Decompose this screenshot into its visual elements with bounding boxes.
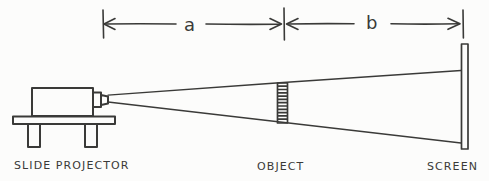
- screen-label: SCREEN: [427, 160, 478, 173]
- object-label: OBJECT: [257, 160, 304, 173]
- optics-diagram: a b SLIDE PROJECTOR OBJECT SCREEN: [0, 0, 489, 181]
- dimension-b-label: b: [366, 12, 378, 33]
- dimension-a-label: a: [184, 14, 196, 35]
- slide-projector-label: SLIDE PROJECTOR: [14, 159, 130, 172]
- diagram-canvas: a b SLIDE PROJECTOR OBJECT SCREEN: [0, 0, 489, 181]
- paper-background: [0, 0, 489, 181]
